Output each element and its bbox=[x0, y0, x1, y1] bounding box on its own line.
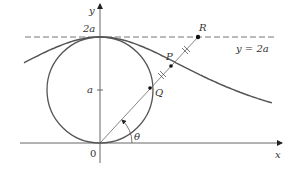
point-r bbox=[196, 35, 200, 39]
q-label: Q bbox=[155, 87, 163, 98]
point-p bbox=[169, 64, 173, 68]
theta-label: θ bbox=[134, 131, 140, 142]
line-eq-label: y = 2a bbox=[235, 43, 269, 54]
angle-arc bbox=[122, 120, 132, 143]
p-label: P bbox=[165, 51, 173, 62]
diagram: y x 0 2a a y = 2a P Q R θ bbox=[0, 0, 291, 171]
witch-curve bbox=[24, 37, 272, 103]
two-a-label: 2a bbox=[82, 23, 95, 34]
r-label: R bbox=[198, 22, 207, 33]
origin-label: 0 bbox=[90, 148, 96, 159]
x-axis-label: x bbox=[275, 149, 281, 160]
y-axis-label: y bbox=[88, 5, 95, 16]
point-q bbox=[148, 86, 152, 90]
ray-line bbox=[100, 37, 198, 143]
a-label: a bbox=[87, 84, 93, 95]
